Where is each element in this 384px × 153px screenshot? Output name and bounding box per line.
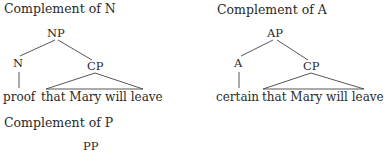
cp-triangle: [263, 73, 364, 89]
leaf-head-word: certain: [216, 91, 259, 103]
leaf-head-word: proof: [3, 91, 35, 103]
node-np: NP: [47, 28, 65, 40]
leaf-complement-text: that Mary will leave: [262, 91, 384, 103]
node-cp: CP: [87, 61, 104, 73]
diagram-title-complement-of-n: Complement of N: [4, 3, 116, 16]
node-a: A: [234, 58, 242, 70]
node-cp: CP: [303, 61, 320, 73]
ap-to-a-branch: [241, 40, 273, 56]
np-to-n-branch: [20, 40, 55, 56]
cp-triangle: [46, 73, 143, 89]
node-pp: PP: [83, 141, 98, 153]
node-ap: AP: [267, 28, 283, 40]
diagram-title-complement-of-p: Complement of P: [4, 117, 113, 130]
leaf-complement-text: that Mary will leave: [41, 91, 163, 103]
node-n: N: [13, 58, 23, 70]
diagram-title-complement-of-a: Complement of A: [217, 4, 327, 17]
ap-to-cp-branch: [277, 40, 308, 60]
np-to-cp-branch: [58, 40, 92, 60]
